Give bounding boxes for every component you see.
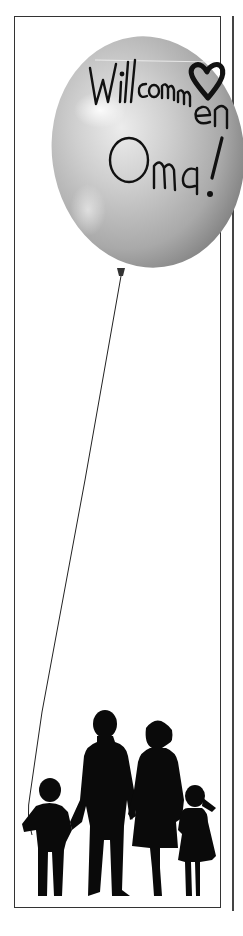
father-silhouette xyxy=(70,710,136,896)
balloon xyxy=(37,24,243,280)
greeting-illustration xyxy=(0,0,243,936)
mother-silhouette xyxy=(128,720,184,896)
family-silhouette xyxy=(22,710,216,896)
